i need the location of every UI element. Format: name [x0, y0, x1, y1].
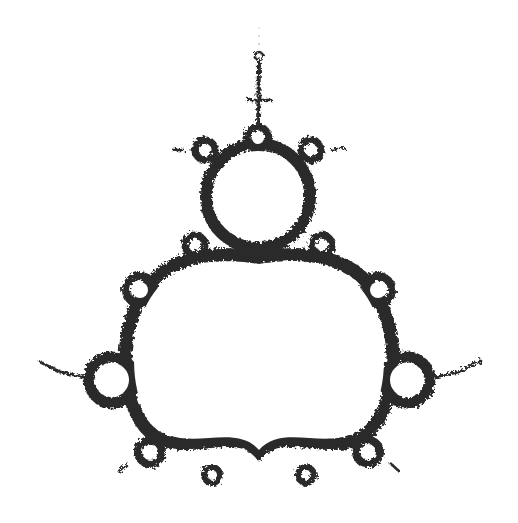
fractal-interior — [95, 132, 424, 459]
mandelbrot-fractal — [0, 0, 518, 523]
fractal-canvas — [0, 0, 518, 523]
antenna-tip — [258, 27, 260, 44]
